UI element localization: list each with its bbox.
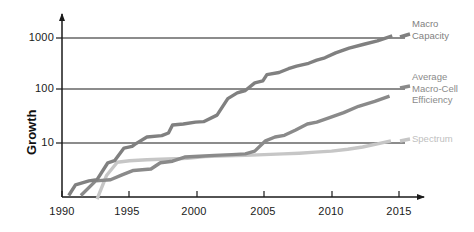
chart-figure: Growth 1000 100 10 1990 1995 2000 2005 2… [0, 0, 474, 232]
legend-swatches [400, 34, 410, 141]
legend-swatch-macro-cell-efficiency [400, 86, 410, 88]
legend-swatch-spectrum [400, 139, 410, 141]
series-lines [69, 36, 393, 199]
chart-canvas [0, 0, 474, 232]
gridlines [62, 38, 405, 143]
x-axis [62, 191, 424, 197]
y-axis [56, 14, 62, 197]
legend-swatch-macro-capacity [400, 34, 410, 37]
series-line-macro-capacity [69, 36, 393, 196]
